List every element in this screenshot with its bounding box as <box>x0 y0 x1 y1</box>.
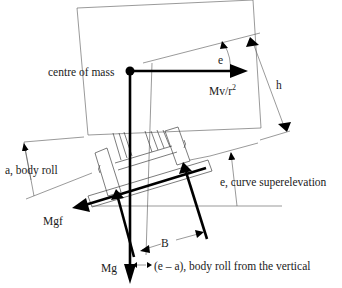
b-dimension-right <box>176 234 198 240</box>
upper-reference-line <box>143 33 260 63</box>
angle-e-label: e <box>218 54 223 66</box>
vehicle-roll-diagram: centre of mass e Mv/r2 h a, body roll e,… <box>0 0 342 288</box>
right-reaction-force-line <box>186 172 207 239</box>
friction-arrowhead-icon <box>72 198 90 212</box>
centrifugal-force-label: Mv/r2 <box>209 83 236 97</box>
centrifugal-arrowhead-icon <box>230 64 248 78</box>
friction-force-line <box>85 168 206 205</box>
base-width-label: B <box>161 237 169 249</box>
roll-from-vertical-label: (e – a), body roll from the vertical <box>154 260 310 273</box>
b-arrow-right-icon <box>195 230 204 238</box>
h-lower-extension <box>260 131 290 140</box>
weight-label: Mg <box>101 262 117 275</box>
weight-arrowhead-icon <box>124 264 136 284</box>
track-plane-line-ext <box>190 156 210 160</box>
left-reaction-force-line <box>118 198 134 257</box>
superelevation-label: e, curve superelevation <box>220 176 327 189</box>
track-plane-line <box>210 143 258 156</box>
h-arrow-bottom-icon <box>278 122 291 132</box>
centre-of-mass-dot <box>126 67 135 76</box>
centre-of-mass-label: centre of mass <box>48 66 115 78</box>
h-arrow-top-icon <box>246 37 259 47</box>
b-arrow-left-icon <box>140 245 150 253</box>
friction-force-label: Mgf <box>43 215 63 228</box>
body-roll-label: a, body roll <box>5 164 58 177</box>
vertical-reference-line <box>146 63 152 255</box>
height-label: h <box>276 79 282 91</box>
roll-vertical-arrowhead-icon <box>147 262 152 268</box>
